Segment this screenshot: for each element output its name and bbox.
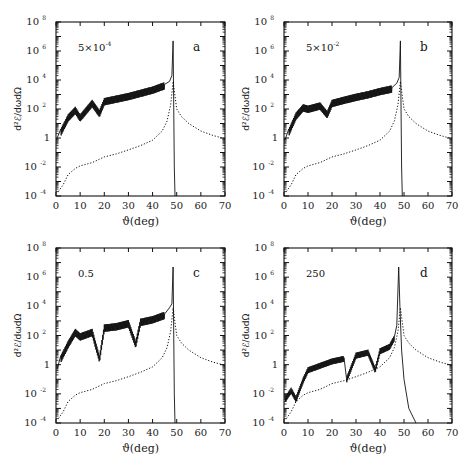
x-tick-label: 50 xyxy=(170,200,183,211)
panel-letter: b xyxy=(420,40,428,54)
x-tick-label: 20 xyxy=(98,200,111,211)
oscillatory-curve xyxy=(285,267,416,423)
x-axis-title: ϑ(deg) xyxy=(349,442,386,455)
dotted-envelope-curve xyxy=(286,308,452,419)
x-tick-label: 70 xyxy=(219,427,232,438)
x-tick-label: 60 xyxy=(194,200,207,211)
x-tick-label: 40 xyxy=(146,200,159,211)
y-tick-label: 10 6 xyxy=(254,43,274,56)
parameter-label: 0.5 xyxy=(78,268,94,279)
x-tick-label: 20 xyxy=(98,427,111,438)
panel-letter: a xyxy=(193,40,200,54)
oscillatory-curve xyxy=(57,267,175,423)
x-tick-label: 70 xyxy=(219,200,232,211)
x-tick-label: 60 xyxy=(422,200,435,211)
x-tick-label: 40 xyxy=(374,427,387,438)
x-axis-title: ϑ(deg) xyxy=(122,442,159,455)
y-tick-label: 10 -4 xyxy=(252,415,274,428)
y-tick-label: 10 6 xyxy=(26,43,46,56)
x-tick-label: 50 xyxy=(398,427,411,438)
y-tick-label: 1 xyxy=(272,132,278,143)
y-tick-label: 1 xyxy=(272,359,278,370)
y-tick-label: 10 4 xyxy=(254,298,274,311)
y-tick-label: 10 -2 xyxy=(24,386,46,399)
y-tick-label: 10 -4 xyxy=(24,415,46,428)
y-tick-label: 1 xyxy=(44,132,50,143)
x-tick-label: 0 xyxy=(53,200,59,211)
y-tick-label: 10 -2 xyxy=(24,159,46,172)
x-tick-label: 10 xyxy=(302,427,315,438)
x-tick-label: 70 xyxy=(446,200,459,211)
y-tick-label: 10 8 xyxy=(254,240,274,253)
y-tick-label: 10 -4 xyxy=(252,188,274,201)
y-tick-label: 1 xyxy=(44,359,50,370)
x-tick-label: 10 xyxy=(74,427,87,438)
dotted-envelope-curve xyxy=(58,81,225,191)
panel-letter: c xyxy=(193,266,200,280)
y-tick-label: 10 -2 xyxy=(252,159,274,172)
y-tick-label: 10 4 xyxy=(254,72,274,85)
panel-letter: d xyxy=(420,266,428,280)
x-axis-title: ϑ(deg) xyxy=(349,215,386,228)
x-axis-title: ϑ(deg) xyxy=(122,215,159,228)
y-tick-label: 10 8 xyxy=(26,240,46,253)
x-tick-label: 50 xyxy=(398,200,411,211)
y-tick-label: 10 8 xyxy=(26,14,46,27)
x-tick-label: 30 xyxy=(122,427,135,438)
oscillatory-curve xyxy=(57,41,175,196)
panel-c: 01020304050607010 -410 -2110 210 410 610… xyxy=(13,240,231,455)
y-tick-label: 10 8 xyxy=(254,14,274,27)
y-tick-label: 10 6 xyxy=(254,269,274,282)
y-tick-label: 10 6 xyxy=(26,269,46,282)
x-tick-label: 40 xyxy=(374,200,387,211)
x-tick-label: 70 xyxy=(446,427,459,438)
x-tick-label: 0 xyxy=(281,427,287,438)
y-axis-title: d²ℰ/dωdΩ xyxy=(241,87,251,131)
x-tick-label: 20 xyxy=(326,200,339,211)
panel-a: 01020304050607010 -410 -2110 210 410 610… xyxy=(13,14,231,228)
x-tick-label: 10 xyxy=(74,200,87,211)
y-tick-label: 10 -4 xyxy=(24,188,46,201)
figure-canvas: 01020304050607010 -410 -2110 210 410 610… xyxy=(0,0,475,469)
x-tick-label: 60 xyxy=(422,427,435,438)
y-tick-label: 10 -2 xyxy=(252,386,274,399)
y-tick-label: 10 2 xyxy=(254,328,274,341)
panel-b: 01020304050607010 -410 -2110 210 410 610… xyxy=(241,14,458,228)
parameter-label: 5×10-4 xyxy=(78,40,111,53)
x-tick-label: 30 xyxy=(122,200,135,211)
parameter-label: 5×10-2 xyxy=(306,40,339,53)
panel-d: 01020304050607010 -410 -2110 210 410 610… xyxy=(241,240,458,455)
y-axis-title: d²ℰ/dωdΩ xyxy=(13,87,23,131)
y-tick-label: 10 2 xyxy=(26,101,46,114)
x-tick-label: 60 xyxy=(194,427,207,438)
x-tick-label: 50 xyxy=(170,427,183,438)
x-tick-label: 20 xyxy=(326,427,339,438)
y-tick-label: 10 2 xyxy=(254,101,274,114)
y-tick-label: 10 4 xyxy=(26,298,46,311)
x-tick-label: 0 xyxy=(281,200,287,211)
y-axis-title: d²ℰ/dωdΩ xyxy=(13,314,23,358)
oscillatory-curve xyxy=(285,41,402,196)
y-tick-label: 10 2 xyxy=(26,328,46,341)
parameter-label: 250 xyxy=(306,268,325,279)
x-tick-label: 10 xyxy=(302,200,315,211)
y-axis-title: d²ℰ/dωdΩ xyxy=(241,314,251,358)
x-tick-label: 30 xyxy=(350,427,363,438)
x-tick-label: 0 xyxy=(53,427,59,438)
x-tick-label: 40 xyxy=(146,427,159,438)
x-tick-label: 30 xyxy=(350,200,363,211)
y-tick-label: 10 4 xyxy=(26,72,46,85)
